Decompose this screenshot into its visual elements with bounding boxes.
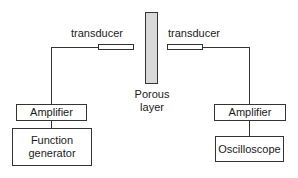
- right-amplifier-label: Amplifier: [229, 106, 272, 119]
- left-wire-horizontal: [51, 47, 98, 48]
- left-amplifier: Amplifier: [16, 104, 87, 121]
- right-wire-horizontal: [203, 47, 250, 48]
- function-generator: Function generator: [12, 128, 92, 166]
- porous-label-line1: Porous: [133, 88, 171, 101]
- right-transducer: [167, 44, 203, 50]
- porous-layer-label: Porous layer: [133, 88, 171, 114]
- right-amp-to-oscilloscope-wire: [249, 121, 250, 136]
- left-amplifier-label: Amplifier: [30, 106, 73, 119]
- left-wire-vertical: [51, 47, 52, 104]
- porous-label-line2: layer: [133, 101, 171, 114]
- ultrasonic-setup-diagram: Porous layer transducer Amplifier Functi…: [0, 0, 298, 178]
- right-amplifier: Amplifier: [214, 104, 286, 121]
- left-transducer: [98, 44, 134, 50]
- right-transducer-label: transducer: [168, 27, 220, 40]
- left-transducer-label: transducer: [71, 27, 123, 40]
- right-wire-vertical: [249, 47, 250, 104]
- left-amp-to-generator-wire: [51, 121, 52, 128]
- function-generator-label-line1: Function: [31, 134, 73, 147]
- function-generator-label-line2: generator: [28, 147, 75, 160]
- oscilloscope-label: Oscilloscope: [218, 143, 280, 156]
- oscilloscope: Oscilloscope: [215, 136, 284, 162]
- porous-layer: [145, 12, 158, 84]
